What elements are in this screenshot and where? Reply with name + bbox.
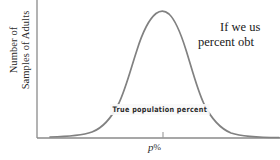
x-axis-label: p% xyxy=(148,141,161,153)
figure-screenshot: Number of Samples of Adults True populat… xyxy=(0,0,280,160)
x-axis-label-unit: % xyxy=(154,142,162,152)
body-paragraph: If we us percent obt xyxy=(198,20,280,50)
body-paragraph-line1: If we us xyxy=(198,20,280,35)
true-population-percent-annotation: True population percent xyxy=(110,104,210,115)
body-paragraph-line2: percent obt xyxy=(198,35,280,50)
